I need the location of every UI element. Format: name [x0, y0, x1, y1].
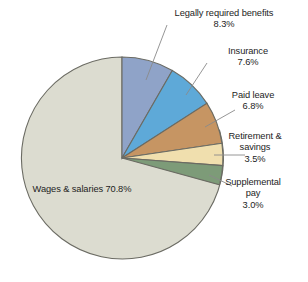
- pie-label-text: Insurance: [228, 46, 268, 56]
- pie-label-text-line2: pay: [204, 188, 302, 199]
- pie-label-insurance: Insurance 7.6%: [198, 46, 298, 69]
- pie-label-paid-leave: Paid leave 6.8%: [206, 90, 300, 113]
- pie-label-value: 7.6%: [198, 57, 298, 68]
- pie-label-text: Supplemental: [225, 177, 281, 187]
- pie-label-supplemental-pay: Supplemental pay 3.0%: [204, 177, 302, 211]
- pie-label-value: 70.8%: [106, 184, 132, 194]
- pie-label-text: Legally required benefits: [175, 8, 274, 18]
- pie-label-text: Retirement &: [228, 131, 281, 141]
- pie-label-wages-salaries: Wages & salaries 70.8%: [22, 184, 142, 195]
- pie-slices: [21, 57, 223, 259]
- pie-label-text: Paid leave: [232, 90, 274, 100]
- pie-label-value: 3.0%: [204, 200, 302, 211]
- pie-label-value: 6.8%: [206, 101, 300, 112]
- pie-label-legally-required-benefits: Legally required benefits 8.3%: [148, 8, 300, 31]
- pie-label-retirement-savings: Retirement & savings 3.5%: [208, 131, 302, 165]
- pie-label-value: 8.3%: [148, 19, 300, 30]
- pie-label-value: 3.5%: [208, 154, 302, 165]
- pie-label-text: Wages & salaries: [33, 184, 103, 194]
- pie-chart-figure: Legally required benefits 8.3% Insurance…: [0, 0, 308, 282]
- pie-label-text-line2: savings: [208, 142, 302, 153]
